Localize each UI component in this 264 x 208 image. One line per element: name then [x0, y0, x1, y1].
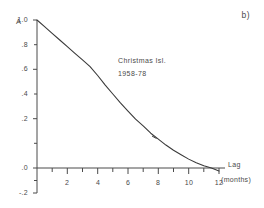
y-tick-label-2: .8	[4, 41, 28, 48]
x-axis-units: (months)	[221, 176, 251, 183]
y-tick-label-5: .2	[4, 115, 28, 122]
y-axis-ticks	[33, 20, 37, 193]
y-tick-label-1: 1.0	[4, 16, 28, 23]
annotation-period: 1958-78	[118, 67, 166, 80]
x-tick-label-1: 2	[57, 179, 77, 186]
acf-figure: A 1.0 .8 .6 .4 .2 .0 -.2 2 4 6 8 10 12 C…	[0, 0, 264, 208]
y-tick-label-3: .6	[4, 65, 28, 72]
annotation-location: Christmas Isl.	[118, 54, 166, 67]
x-axis-title: Lag	[228, 161, 241, 168]
x-axis-ticks	[52, 168, 219, 174]
x-tick-label-4: 8	[148, 179, 168, 186]
x-tick-label-3: 6	[118, 179, 138, 186]
y-tick-label-7: -.2	[4, 189, 28, 196]
panel-label: b)	[241, 10, 250, 20]
x-tick-label-5: 10	[179, 179, 199, 186]
x-tick-label-2: 4	[88, 179, 108, 186]
y-tick-label-4: .4	[4, 90, 28, 97]
y-tick-label-6: .0	[4, 164, 28, 171]
acf-curve-line	[37, 20, 219, 171]
plot-annotation: Christmas Isl. 1958-78	[118, 54, 166, 80]
